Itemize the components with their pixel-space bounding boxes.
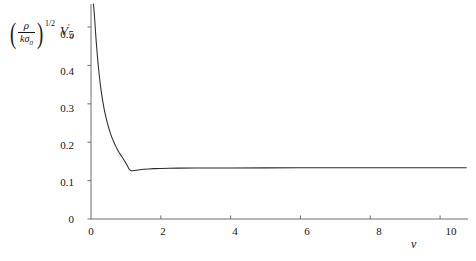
plot-area — [0, 0, 476, 261]
x-axis-ticks — [161, 216, 440, 220]
y-axis-ticks — [88, 27, 92, 219]
data-series-curve — [93, 4, 466, 171]
figure-container: ( ρ kσ0 )1/2 V′0 0.5 0.4 0.3 0.2 0.1 0 0… — [0, 0, 476, 261]
axes-group — [88, 4, 469, 219]
